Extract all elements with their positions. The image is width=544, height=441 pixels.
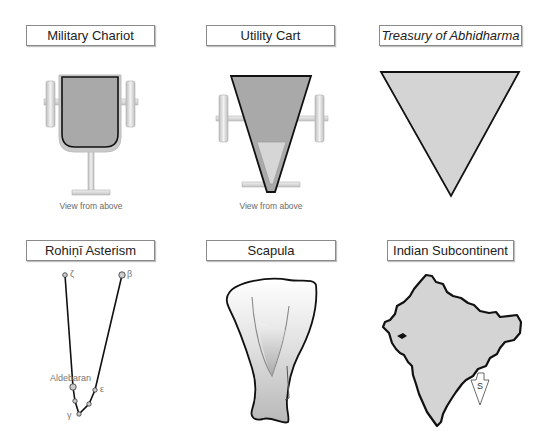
label-aldebaran: Aldebaran <box>50 373 91 383</box>
star-aldebaran <box>70 384 76 390</box>
star-theta <box>73 399 77 403</box>
chariot-yoke <box>72 190 110 195</box>
star-gamma <box>77 412 81 416</box>
title-treasury-of-abhidharma: Treasury of Abhidharma <box>379 25 522 46</box>
star-delta <box>87 402 91 406</box>
scapula-diagram <box>227 279 317 423</box>
chariot-pole <box>88 150 94 192</box>
india-map <box>383 275 521 426</box>
star-zeta <box>63 273 68 278</box>
title-indian-subcontinent: Indian Subcontinent <box>387 240 514 261</box>
label-zeta: ζ <box>70 269 74 279</box>
cart-diagram <box>216 76 328 192</box>
south-marker-label: S <box>477 381 483 391</box>
subcontinent-outline <box>383 275 521 426</box>
left-wheel <box>219 95 228 142</box>
title-scapula: Scapula <box>206 240 336 261</box>
title-utility-cart: Utility Cart <box>206 25 335 46</box>
label-beta: β <box>127 269 132 279</box>
caption-cart: View from above <box>220 201 322 211</box>
star-epsilon <box>93 388 97 392</box>
label-gamma: γ <box>67 410 72 420</box>
left-wheel <box>46 81 55 127</box>
asterism-diagram <box>63 272 126 416</box>
chariot-diagram <box>44 75 138 195</box>
right-wheel <box>126 81 135 127</box>
label-epsilon: ε <box>100 384 104 394</box>
title-rohini-asterism: Rohiṇī Asterism <box>26 240 155 261</box>
right-wheel <box>315 95 324 142</box>
star-beta <box>119 272 125 278</box>
title-military-chariot: Military Chariot <box>26 25 155 46</box>
inverted-triangle <box>381 72 519 196</box>
chariot-body <box>62 77 118 147</box>
caption-chariot: View from above <box>40 201 142 211</box>
